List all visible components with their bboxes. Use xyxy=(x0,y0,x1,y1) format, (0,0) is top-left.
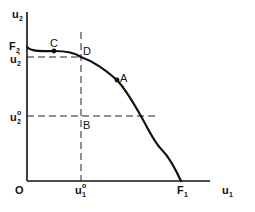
point-d-label: D xyxy=(83,45,91,57)
point-c-marker xyxy=(52,49,57,54)
point-a-marker xyxy=(115,78,120,83)
svg-text:1: 1 xyxy=(229,191,233,198)
frontier-curve xyxy=(27,47,181,181)
svg-text:u: u xyxy=(12,8,19,20)
frontier-diagram: C D A B u 2 F 2 u 2 ' u 2 o O u 1 o F 1 … xyxy=(0,0,255,212)
svg-text:F: F xyxy=(177,184,184,196)
x-axis-label: u 1 xyxy=(222,184,233,198)
svg-text:1: 1 xyxy=(82,191,86,198)
x-intercept-label: F 1 xyxy=(177,184,188,198)
u2-zero-label: u 2 o xyxy=(10,109,21,125)
svg-text:u: u xyxy=(10,111,17,123)
svg-text:2: 2 xyxy=(17,118,21,125)
u1-zero-label: u 1 o xyxy=(75,182,86,198)
y-axis-label: u 2 xyxy=(12,8,23,22)
svg-text:2: 2 xyxy=(17,60,21,67)
svg-text:o: o xyxy=(17,109,21,116)
svg-text:u: u xyxy=(10,53,17,65)
u2-prime-label: u 2 ' xyxy=(10,51,21,67)
svg-text:o: o xyxy=(82,182,86,189)
svg-text:': ' xyxy=(18,51,20,60)
point-a-label: A xyxy=(120,72,128,84)
svg-text:u: u xyxy=(75,184,82,196)
svg-text:1: 1 xyxy=(184,191,188,198)
svg-text:F: F xyxy=(9,40,16,52)
svg-text:u: u xyxy=(222,184,229,196)
svg-text:2: 2 xyxy=(19,15,23,22)
point-b-label: B xyxy=(83,119,90,131)
origin-label: O xyxy=(15,184,24,196)
point-c-label: C xyxy=(50,37,58,49)
